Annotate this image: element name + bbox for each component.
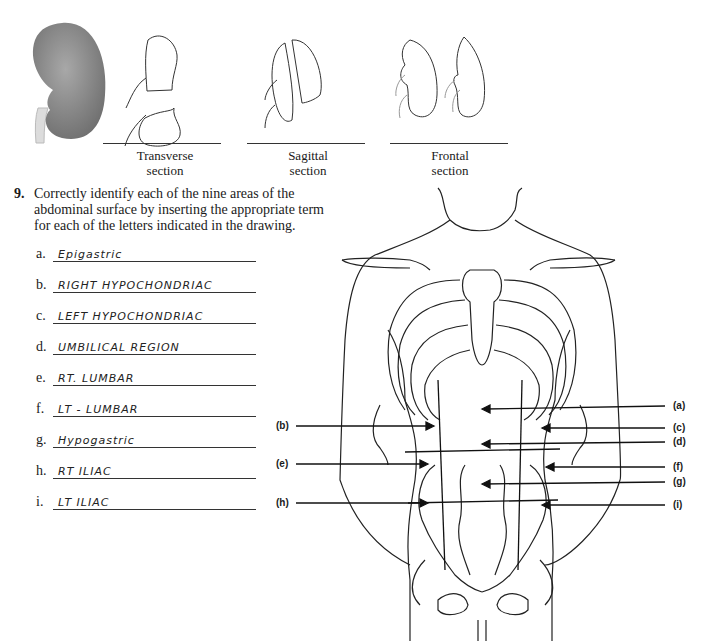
answer-line (53, 509, 256, 510)
answer-a[interactable]: a. Epigastric (36, 240, 256, 264)
answer-letter: a. (36, 246, 46, 262)
answer-letter: c. (36, 308, 46, 324)
answer-i[interactable]: i. LT ILIAC (36, 488, 256, 512)
label-i: (i) (673, 499, 682, 510)
answer-letter: f. (36, 401, 44, 417)
question-number: 9. (14, 186, 25, 202)
label-c: (c) (673, 422, 685, 433)
caption-line: Transverse (105, 148, 225, 163)
answer-c[interactable]: c. LEFT HYPOCHONDRIAC (36, 302, 256, 326)
answer-value[interactable]: LT - LUMBAR (58, 403, 138, 416)
answer-value[interactable]: Epigastric (58, 248, 122, 261)
torso-drawing (260, 180, 706, 641)
label-d: (d) (673, 436, 686, 447)
answer-value[interactable]: Hypogastric (58, 434, 135, 447)
answer-line (53, 354, 256, 355)
answer-line (53, 292, 256, 293)
answer-value[interactable]: LT ILIAC (58, 496, 109, 509)
answer-letter: b. (36, 277, 47, 293)
label-a: (a) (673, 400, 685, 411)
caption-line: Sagittal (248, 148, 368, 163)
caption-line: section (248, 163, 368, 178)
kidney-sections-figure: Transverse section Sagittal section Fron… (0, 0, 706, 180)
answer-line (53, 416, 256, 417)
caption-line: section (390, 163, 510, 178)
label-h: (h) (276, 497, 289, 508)
caption-line: section (105, 163, 225, 178)
answer-h[interactable]: h. RT ILIAC (36, 457, 256, 481)
label-f: (f) (673, 461, 683, 472)
transverse-caption: Transverse section (105, 148, 225, 178)
answer-line (53, 261, 256, 262)
answer-letter: i. (36, 494, 43, 510)
frontal-caption: Frontal section (390, 148, 510, 178)
caption-line: Frontal (390, 148, 510, 163)
answer-d[interactable]: d. UMBILICAL REGION (36, 333, 256, 357)
label-e: (e) (276, 458, 288, 469)
abdominal-regions-diagram: (a) (b) (c) (d) (e) (f) (g) (h) (i) (260, 180, 706, 641)
answer-letter: g. (36, 432, 47, 448)
answer-line (53, 478, 256, 479)
answer-value[interactable]: LEFT HYPOCHONDRIAC (58, 310, 203, 323)
answer-value[interactable]: RT ILIAC (58, 465, 112, 478)
answer-f[interactable]: f. LT - LUMBAR (36, 395, 256, 419)
answer-letter: d. (36, 339, 47, 355)
answer-letter: e. (36, 370, 46, 386)
label-b: (b) (276, 420, 289, 431)
answer-b[interactable]: b. RIGHT HYPOCHONDRIAC (36, 271, 256, 295)
answer-value[interactable]: UMBILICAL REGION (58, 341, 180, 354)
answer-line (53, 323, 256, 324)
answer-line (53, 385, 256, 386)
sagittal-caption: Sagittal section (248, 148, 368, 178)
answer-letter: h. (36, 463, 47, 479)
answer-value[interactable]: RIGHT HYPOCHONDRIAC (58, 279, 213, 292)
answer-value[interactable]: RT. LUMBAR (58, 372, 134, 385)
answer-g[interactable]: g. Hypogastric (36, 426, 256, 450)
label-g: (g) (673, 476, 686, 487)
answer-e[interactable]: e. RT. LUMBAR (36, 364, 256, 388)
answer-line (53, 447, 256, 448)
